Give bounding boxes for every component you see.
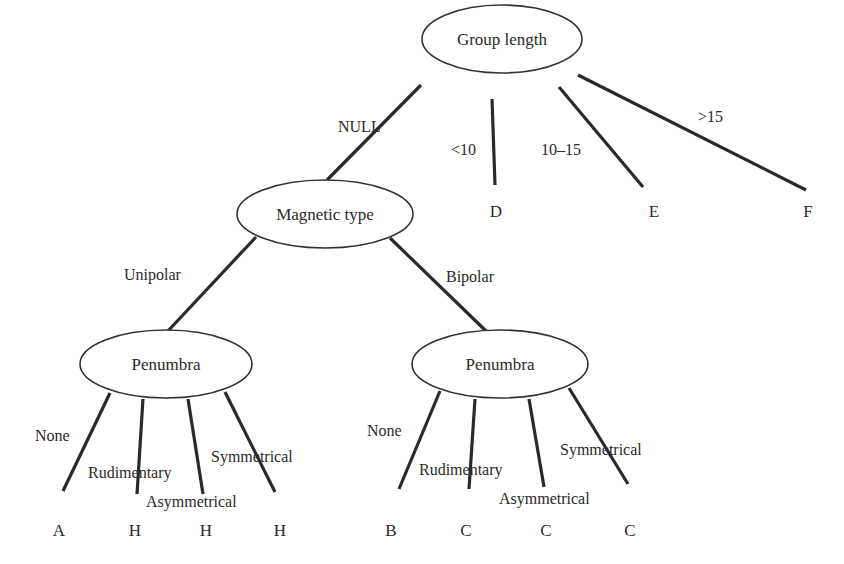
node-penumbra-left: Penumbra xyxy=(80,330,252,398)
leaf-c1: C xyxy=(460,521,471,540)
node-label: Magnetic type xyxy=(276,205,374,224)
leaf-c2: C xyxy=(540,521,551,540)
edge-penumbra-right-to-c3 xyxy=(569,388,628,484)
edge-label: NULL xyxy=(338,118,381,135)
edges-layer xyxy=(63,75,806,494)
node-label: Group length xyxy=(457,30,548,49)
edge-label: Rudimentary xyxy=(419,461,503,479)
edge-label: <10 xyxy=(451,141,476,158)
edge-group-length-to-d xyxy=(492,99,495,185)
leaf-c3: C xyxy=(624,521,635,540)
nodes-layer: Group lengthMagnetic typePenumbraPenumbr… xyxy=(80,5,588,398)
leaf-b: B xyxy=(385,521,396,540)
leaf-e: E xyxy=(649,202,659,221)
leaf-d: D xyxy=(490,202,502,221)
node-group-length: Group length xyxy=(422,5,582,73)
node-label: Penumbra xyxy=(132,355,201,374)
leaf-a: A xyxy=(53,521,66,540)
node-label: Penumbra xyxy=(466,355,535,374)
leaf-h1: H xyxy=(129,521,141,540)
node-penumbra-right: Penumbra xyxy=(412,330,588,398)
decision-tree-diagram: Group lengthMagnetic typePenumbraPenumbr… xyxy=(0,0,844,564)
edge-label: Bipolar xyxy=(446,268,495,286)
leaf-h2: H xyxy=(200,521,212,540)
diagram-svg: Group lengthMagnetic typePenumbraPenumbr… xyxy=(0,0,844,564)
leaf-f: F xyxy=(803,202,812,221)
edge-penumbra-left-to-h3 xyxy=(225,392,275,492)
edge-label: Symmetrical xyxy=(211,448,293,466)
edge-label: Unipolar xyxy=(124,266,182,284)
edge-label: Asymmetrical xyxy=(146,493,237,511)
edge-label: Rudimentary xyxy=(88,464,172,482)
node-magnetic-type: Magnetic type xyxy=(237,180,413,248)
leaf-h3: H xyxy=(274,521,286,540)
edge-label: >15 xyxy=(698,108,723,125)
edge-group-length-to-f xyxy=(578,75,806,190)
edge-penumbra-left-to-h2 xyxy=(188,399,203,494)
edge-penumbra-right-to-c2 xyxy=(529,399,544,487)
edge-label: Symmetrical xyxy=(560,441,642,459)
edge-magnetic-type-to-penumbra-left xyxy=(167,237,256,332)
edge-label: Asymmetrical xyxy=(499,490,590,508)
edge-label: None xyxy=(35,427,70,444)
edge-label: None xyxy=(367,422,402,439)
edge-label: 10–15 xyxy=(541,141,581,158)
